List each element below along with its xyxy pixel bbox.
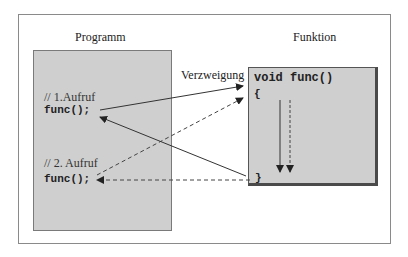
call-arrow-second	[97, 98, 243, 175]
arrows-layer	[0, 0, 408, 257]
return-arrow-first	[100, 117, 246, 176]
call-arrow-first	[100, 86, 243, 110]
